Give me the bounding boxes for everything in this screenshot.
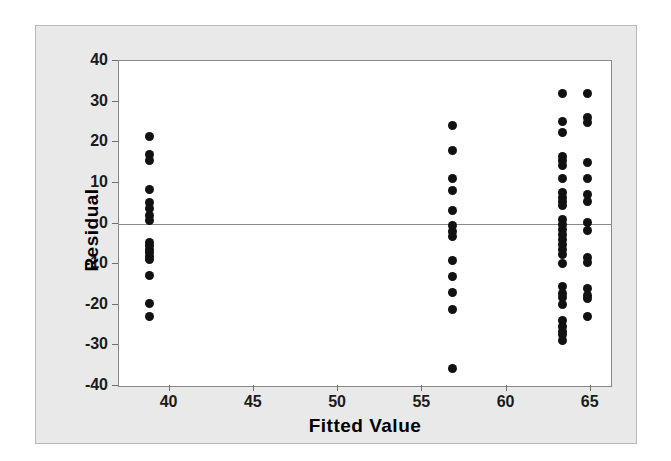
data-point: [558, 161, 567, 170]
x-axis-tick-mark: [253, 385, 254, 391]
data-point: [145, 271, 154, 280]
y-axis-tick-mark: [112, 223, 118, 224]
data-point: [145, 216, 154, 225]
data-point: [448, 232, 457, 241]
data-point: [448, 174, 457, 183]
x-axis-tick-mark: [506, 385, 507, 391]
y-axis-tick-label: 40: [90, 51, 108, 69]
x-axis-tick-label: 45: [244, 393, 262, 411]
data-point: [583, 174, 592, 183]
scatter-points-layer: [119, 61, 611, 386]
data-point: [583, 258, 592, 267]
data-point: [558, 250, 567, 259]
x-axis-tick-label: 60: [497, 393, 515, 411]
data-point: [448, 121, 457, 130]
data-point: [558, 174, 567, 183]
data-point: [583, 158, 592, 167]
y-axis-tick-label: -30: [85, 335, 108, 353]
data-point: [583, 226, 592, 235]
data-point: [583, 294, 592, 303]
data-point: [448, 305, 457, 314]
data-point: [583, 89, 592, 98]
x-axis-tick-mark: [169, 385, 170, 391]
x-axis-tick-label: 65: [581, 393, 599, 411]
data-point: [558, 128, 567, 137]
y-axis-tick-mark: [112, 263, 118, 264]
data-point: [448, 206, 457, 215]
x-axis-tick-label: 55: [412, 393, 430, 411]
data-point: [558, 201, 567, 210]
data-point: [145, 255, 154, 264]
data-point: [558, 89, 567, 98]
data-point: [448, 256, 457, 265]
x-axis-tick-label: 50: [328, 393, 346, 411]
data-point: [145, 132, 154, 141]
data-point: [558, 336, 567, 345]
x-axis-tick-label: 40: [160, 393, 178, 411]
figure-panel: 403020100-10-20-30-40 Residual 404550556…: [35, 25, 637, 444]
y-axis-tick-label: 30: [90, 92, 108, 110]
data-point: [583, 197, 592, 206]
x-axis-title: Fitted Value: [118, 415, 612, 437]
x-axis-tick-mark: [337, 385, 338, 391]
data-point: [448, 288, 457, 297]
y-axis-tick-mark: [112, 101, 118, 102]
data-point: [448, 146, 457, 155]
data-point: [145, 156, 154, 165]
x-axis-tick-mark: [590, 385, 591, 391]
y-axis-tick-mark: [112, 141, 118, 142]
data-point: [583, 118, 592, 127]
data-point: [558, 259, 567, 268]
data-point: [558, 300, 567, 309]
y-axis-tick-mark: [112, 344, 118, 345]
y-axis-tick-mark: [112, 60, 118, 61]
plot-area: [118, 60, 612, 387]
data-point: [145, 299, 154, 308]
data-point: [558, 117, 567, 126]
data-point: [583, 312, 592, 321]
data-point: [448, 272, 457, 281]
y-axis-tick-label: 20: [90, 132, 108, 150]
x-axis-tick-mark: [421, 385, 422, 391]
data-point: [145, 185, 154, 194]
y-axis-tick-label: -40: [85, 376, 108, 394]
data-point: [145, 312, 154, 321]
y-axis-title: Residual: [81, 160, 103, 300]
data-point: [448, 186, 457, 195]
y-axis-tick-mark: [112, 182, 118, 183]
y-axis-tick-mark: [112, 304, 118, 305]
data-point: [448, 364, 457, 373]
y-axis-tick-mark: [112, 385, 118, 386]
